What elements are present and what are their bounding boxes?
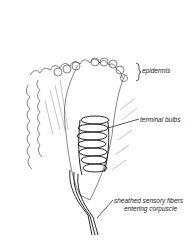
corpuscle-illustration: epidermis terminal bulbs sheathed sensor… bbox=[0, 0, 196, 245]
sensory-fibers-label-line2: entering corpuscle bbox=[124, 205, 177, 212]
epidermis-label: epidermis bbox=[142, 67, 170, 74]
terminal-bulbs-label: terminal bulbs bbox=[140, 116, 180, 123]
sensory-fibers-label-line1: sheathed sensory fibers bbox=[114, 197, 183, 204]
